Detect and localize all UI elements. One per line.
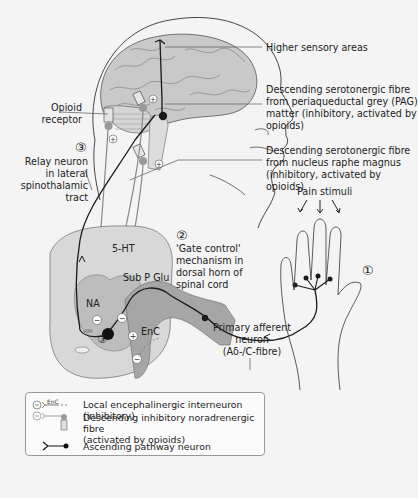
- step-3-cord-marker: ③: [97, 333, 107, 346]
- svg-text:+: +: [150, 96, 156, 104]
- step-2-marker: ②: [176, 228, 188, 243]
- label-pag-fibre: Descending serotonergic fibre from peria…: [266, 84, 418, 132]
- label-5ht: 5-HT: [112, 243, 135, 255]
- label-enc: EnC: [141, 326, 160, 338]
- legend-item-noradrenergic: Descending inhibitory noradrenergic fibr…: [26, 411, 264, 435]
- svg-text:−: −: [119, 314, 126, 323]
- svg-text:EnC: EnC: [47, 398, 59, 405]
- label-opioid-receptor: Opioid receptor: [22, 102, 82, 126]
- step-1-marker: ①: [362, 263, 374, 278]
- pain-arrows: [298, 200, 340, 213]
- label-na: NA: [86, 298, 100, 310]
- legend-item-encephalinergic: EnC Local encephalinergic interneuron (i…: [26, 397, 264, 411]
- hand-outline: [281, 219, 361, 390]
- legend-label-ascending: Ascending pathway neuron: [83, 441, 211, 452]
- legend: EnC Local encephalinergic interneuron (i…: [25, 392, 265, 456]
- brain: [101, 34, 257, 170]
- svg-text:+: +: [130, 332, 137, 341]
- step-3-relay-marker: ③: [75, 140, 87, 155]
- legend-item-ascending: Ascending pathway neuron: [26, 439, 264, 453]
- label-higher-sensory-areas: Higher sensory areas: [266, 42, 368, 54]
- svg-text:−: −: [134, 355, 141, 364]
- label-pain-stimuli: Pain stimuli: [297, 186, 352, 198]
- noradrenergic-fibre-icon: [31, 411, 81, 435]
- svg-text:−: −: [94, 316, 101, 325]
- label-gate-control: 'Gate control' mechanism in dorsal horn …: [176, 243, 243, 291]
- label-sub-p-glu: Sub P Glu: [123, 272, 169, 284]
- svg-text:+: +: [110, 136, 116, 144]
- label-primary-afferent: Primary afferent neuron (Aδ-/C-fibre): [213, 322, 291, 358]
- encephalinergic-interneuron-icon: EnC: [31, 397, 81, 411]
- label-relay-neuron: Relay neuron in lateral spinothalamic tr…: [6, 156, 88, 204]
